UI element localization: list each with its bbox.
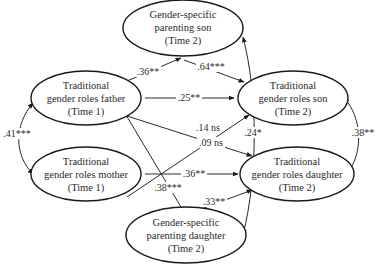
- svg-text:parenting son: parenting son: [155, 22, 213, 33]
- label-mother-son: .14 ns: [196, 122, 220, 133]
- label-gs-son-gs-daughter: .24*: [244, 127, 262, 138]
- svg-text:Gender-specific: Gender-specific: [150, 9, 217, 20]
- label-son-daughter: .38**: [352, 127, 375, 138]
- svg-text:(Time 1): (Time 1): [68, 182, 105, 194]
- label-father-mother: .41***: [3, 128, 31, 139]
- svg-text:(Time 1): (Time 1): [68, 106, 105, 118]
- svg-text:gender roles daughter: gender roles daughter: [252, 169, 343, 180]
- edges: [19, 37, 359, 235]
- node-son: Traditional gender roles son (Time 2): [238, 71, 348, 125]
- svg-text:(Time 2): (Time 2): [168, 243, 205, 255]
- label-gs-son-son: .64***: [197, 61, 225, 72]
- svg-text:(Time 2): (Time 2): [165, 35, 202, 47]
- edge-father-daughter: [127, 116, 252, 156]
- svg-text:Traditional: Traditional: [270, 80, 316, 91]
- svg-text:(Time 2): (Time 2): [279, 182, 316, 194]
- node-daughter: Traditional gender roles daughter (Time …: [240, 147, 354, 201]
- svg-text:gender roles mother: gender roles mother: [44, 169, 128, 180]
- node-mother: Traditional gender roles mother (Time 1): [31, 147, 141, 201]
- label-father-gs-son: .36**: [137, 66, 160, 77]
- svg-text:Traditional: Traditional: [274, 156, 320, 167]
- label-gs-daughter-daughter: .33**: [203, 196, 226, 207]
- svg-text:gender roles son: gender roles son: [259, 93, 329, 104]
- svg-text:gender roles father: gender roles father: [47, 93, 126, 104]
- label-father-son: .25**: [178, 92, 201, 103]
- svg-text:parenting daughter: parenting daughter: [146, 230, 226, 241]
- label-father-gs-daughter: .38***: [154, 182, 182, 193]
- label-father-daughter: .09 ns: [199, 137, 223, 148]
- svg-text:Traditional: Traditional: [63, 80, 109, 91]
- svg-text:(Time 2): (Time 2): [275, 106, 312, 118]
- label-mother-daughter: .36**: [183, 168, 206, 179]
- edge-mother-son: [127, 115, 249, 197]
- svg-text:Gender-specific: Gender-specific: [153, 217, 220, 228]
- node-gs-daughter: Gender-specific parenting daughter (Time…: [126, 207, 246, 263]
- node-gs-son: Gender-specific parenting son (Time 2): [123, 0, 243, 56]
- node-father: Traditional gender roles father (Time 1): [31, 71, 141, 125]
- svg-text:Traditional: Traditional: [63, 156, 109, 167]
- path-diagram: .36** .64*** .25** .14 ns .09 ns .36** .…: [0, 0, 383, 269]
